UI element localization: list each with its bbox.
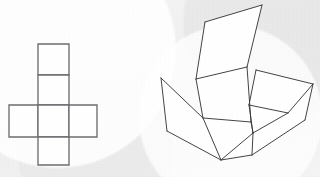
net-square-center <box>38 105 69 137</box>
box-flap-back-upper <box>196 5 262 79</box>
net-square-top <box>38 44 69 75</box>
cube-net-group <box>9 44 97 165</box>
net-square-bottom <box>38 137 69 165</box>
net-square-upper-middle <box>38 75 69 105</box>
geometry-illustration <box>0 0 320 177</box>
net-square-right <box>69 105 97 137</box>
figure-canvas <box>0 0 320 177</box>
net-square-left <box>9 105 38 137</box>
open-box-group <box>161 5 313 160</box>
